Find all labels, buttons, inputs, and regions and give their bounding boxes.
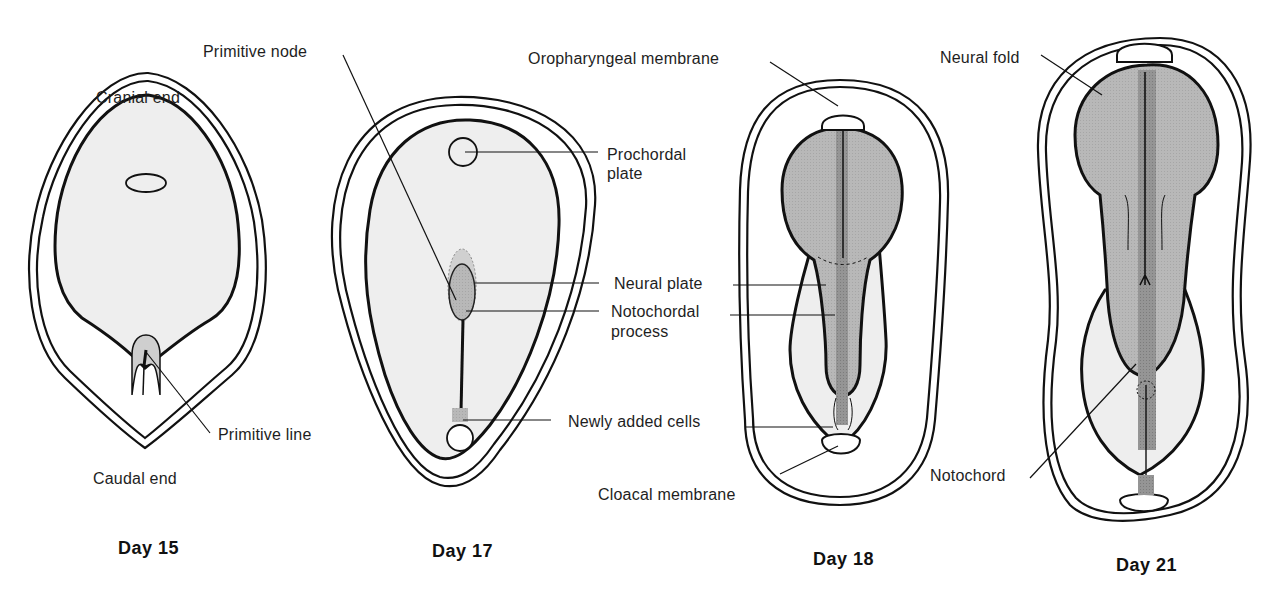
label-notochordal-process-line1: Notochordal — [611, 302, 699, 321]
label-prochordal-plate-line2: plate — [607, 164, 643, 183]
day21-notochord — [1138, 70, 1156, 450]
label-primitive-line: Primitive line — [218, 425, 312, 444]
label-newly-added-cells: Newly added cells — [568, 412, 700, 431]
diagram-drawing — [0, 0, 1277, 602]
label-neural-fold: Neural fold — [940, 48, 1020, 67]
label-cranial-end: Cranial end — [96, 88, 180, 107]
day18-oropharyngeal-membrane — [822, 116, 864, 131]
day21-caudal-membrane — [1120, 494, 1168, 511]
panel-title-day17: Day 17 — [432, 541, 493, 562]
panel-title-day21: Day 21 — [1116, 555, 1177, 576]
day15-embryonic-disc — [55, 95, 239, 368]
label-neural-plate: Neural plate — [614, 274, 703, 293]
day17-embryo — [332, 55, 599, 486]
label-primitive-node: Primitive node — [203, 42, 307, 61]
label-oropharyngeal-membrane: Oropharyngeal membrane — [528, 49, 719, 68]
day17-cloacal-membrane — [447, 425, 473, 451]
day21-cranial-membrane — [1117, 44, 1172, 62]
label-notochordal-process-line2: process — [611, 322, 668, 341]
day18-embryo — [730, 62, 948, 505]
leader-oropharyngeal-membrane — [770, 62, 838, 106]
label-notochord: Notochord — [930, 466, 1006, 485]
embryo-development-figure: Cranial end Caudal end Primitive line Da… — [0, 0, 1277, 602]
label-prochordal-plate-line1: Prochordal — [607, 145, 686, 164]
label-cloacal-membrane: Cloacal membrane — [598, 485, 735, 504]
day21-embryo — [1030, 38, 1251, 521]
leader-cloacal-membrane — [780, 446, 838, 474]
panel-title-day18: Day 18 — [813, 549, 874, 570]
day18-notochord — [836, 130, 848, 425]
label-caudal-end: Caudal end — [93, 469, 177, 488]
panel-title-day15: Day 15 — [118, 538, 179, 559]
day15-embryo — [29, 73, 266, 448]
